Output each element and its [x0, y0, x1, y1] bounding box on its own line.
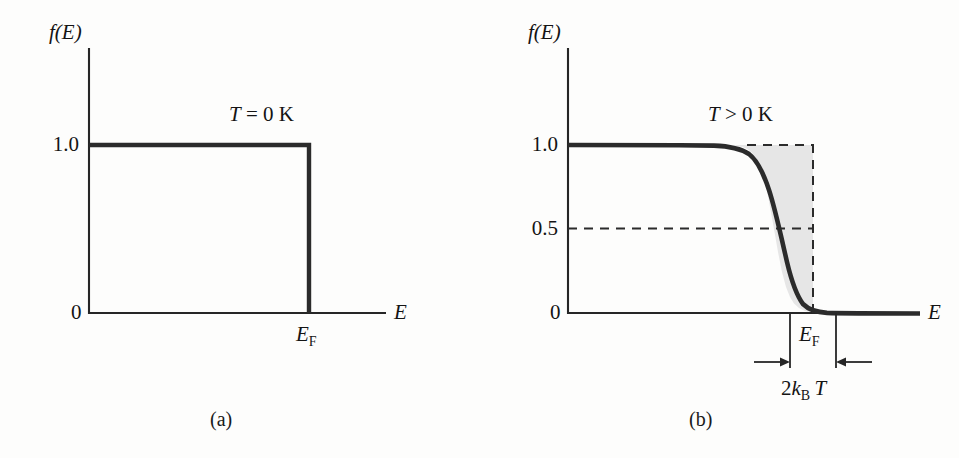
temperature-label-b: T > 0 K — [708, 104, 773, 125]
x-axis-label-b: E — [928, 302, 941, 323]
temperature-value-b: > 0 K — [725, 102, 773, 126]
boltzmann-constant-symbol: k — [792, 376, 801, 400]
temperature-value-a: = 0 K — [246, 102, 294, 126]
thermal-width-temperature-symbol: T — [814, 376, 826, 400]
panel-caption-a: (a) — [210, 408, 232, 431]
width-arrow-left-head — [780, 358, 790, 367]
fermi-energy-label-a: EF — [296, 324, 317, 345]
panel-caption-b: (b) — [689, 408, 712, 431]
temperature-symbol-a: T — [229, 102, 241, 126]
fermi-dirac-figure: f(E) 1.0 0 E EF T = 0 K (a) — [0, 0, 959, 458]
y-tick-label-0-a: 0 — [71, 302, 82, 323]
panel-b: f(E) 1.0 0.5 0 E EF T > 0 K 2kB T (b) — [479, 0, 959, 458]
panel-a-graphics — [0, 0, 480, 458]
boltzmann-constant-subscript: B — [801, 388, 810, 403]
x-axis-label-a: E — [394, 302, 407, 323]
y-tick-label-1.0-a: 1.0 — [53, 134, 79, 155]
step-curve-a — [89, 145, 309, 313]
fermi-energy-subscript-b: F — [812, 334, 820, 349]
fermi-energy-symbol-b: E — [799, 322, 812, 346]
y-axis-label-a: f(E) — [49, 22, 82, 43]
fermi-energy-symbol-a: E — [296, 322, 309, 346]
thermal-width-coefficient: 2 — [781, 376, 792, 400]
y-tick-label-0.5-b: 0.5 — [532, 218, 558, 239]
fermi-energy-label-b: EF — [799, 324, 820, 345]
y-tick-label-0-b: 0 — [550, 302, 561, 323]
fermi-energy-subscript-a: F — [309, 334, 317, 349]
y-tick-label-1.0-b: 1.0 — [532, 134, 558, 155]
temperature-symbol-b: T — [708, 102, 720, 126]
temperature-label-a: T = 0 K — [229, 104, 294, 125]
thermal-width-label: 2kB T — [781, 378, 826, 399]
width-arrow-right-head — [836, 358, 846, 367]
panel-a: f(E) 1.0 0 E EF T = 0 K (a) — [0, 0, 480, 458]
y-axis-label-b: f(E) — [528, 22, 561, 43]
